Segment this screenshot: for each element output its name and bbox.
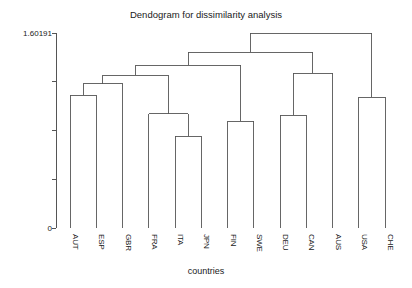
leaf-label-che: CHE: [386, 234, 395, 250]
dendrogram-link: [293, 73, 332, 228]
leaf-label-esp: ESP: [97, 234, 106, 249]
leaf-label-jpn: JPN: [202, 234, 211, 249]
x-axis-label: countries: [188, 266, 225, 276]
y-axis-max-label: 1.60191: [23, 29, 52, 38]
dendrogram-svg: Dendogram for dissimilarity analysis 1.6…: [0, 0, 412, 288]
dendrogram-link: [250, 33, 371, 97]
dendrogram-link: [228, 121, 254, 228]
y-axis: 1.60191 0: [23, 29, 56, 233]
leaf-label-fin: FIN: [229, 234, 238, 247]
leaf-label-fra: FRA: [150, 234, 159, 250]
dendrogram-link: [70, 95, 96, 228]
y-axis-ticks: [52, 33, 56, 228]
dendrogram-link: [359, 97, 385, 228]
leaf-label-can: CAN: [307, 234, 316, 251]
dendrogram-link: [83, 84, 122, 228]
dendrogram-link: [175, 136, 201, 228]
chart-title: Dendogram for dissimilarity analysis: [130, 9, 282, 20]
dendrogram-link: [149, 114, 188, 228]
dendrogram-link: [188, 52, 313, 73]
dendrogram-link: [103, 75, 169, 113]
leaf-label-gbr: GBR: [124, 234, 133, 251]
leaf-label-aus: AUS: [334, 234, 343, 250]
leaf-label-aut: AUT: [71, 234, 80, 250]
dendrogram-plot: Dendogram for dissimilarity analysis 1.6…: [0, 0, 412, 288]
dendrogram-link: [280, 115, 306, 228]
dendrogram-links: [70, 33, 385, 228]
dendrogram-leaf-labels: AUTESPGBRFRAITAJPNFINSWEDEUCANAUSUSACHE: [71, 234, 395, 252]
leaf-label-swe: SWE: [255, 234, 264, 252]
y-axis-min-label: 0: [48, 224, 53, 233]
leaf-label-usa: USA: [360, 234, 369, 251]
leaf-label-ita: ITA: [176, 234, 185, 246]
leaf-label-deu: DEU: [281, 234, 290, 251]
dendrogram-link: [136, 65, 241, 121]
